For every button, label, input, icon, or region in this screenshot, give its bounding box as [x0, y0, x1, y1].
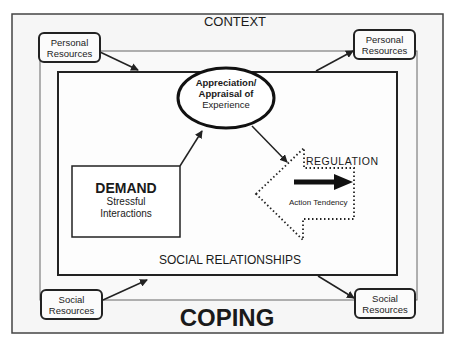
- social-resources-right: Social Resources: [354, 288, 416, 319]
- personal-resources-left-line2: Resources: [40, 48, 99, 59]
- appraisal-line1: Appreciation/: [180, 77, 272, 88]
- demand-title: DEMAND: [72, 180, 180, 196]
- social-resources-left: Social Resources: [40, 289, 103, 320]
- social-relationships-label: SOCIAL RELATIONSHIPS: [140, 253, 320, 267]
- personal-resources-left: Personal Resources: [38, 32, 101, 63]
- coping-label: COPING: [150, 305, 304, 331]
- personal-resources-right-line2: Resources: [355, 45, 414, 56]
- social-resources-left-line1: Social: [42, 294, 101, 305]
- appraisal-line2: Appraisal of: [180, 88, 272, 99]
- regulation-label: REGULATION: [306, 155, 386, 167]
- social-resources-left-line2: Resources: [42, 305, 101, 316]
- demand-line1: Stressful: [72, 196, 180, 208]
- personal-resources-right-line1: Personal: [355, 34, 414, 45]
- action-tendency-label: Action Tendency: [289, 198, 359, 207]
- context-label: CONTEXT: [190, 14, 280, 29]
- personal-resources-left-line1: Personal: [40, 37, 99, 48]
- demand-text: DEMAND Stressful Interactions: [72, 180, 180, 220]
- appraisal-text: Appreciation/ Appraisal of Experience: [180, 77, 272, 110]
- personal-resources-right: Personal Resources: [353, 29, 416, 60]
- appraisal-line3: Experience: [180, 99, 272, 110]
- demand-line2: Interactions: [72, 208, 180, 220]
- social-resources-right-line2: Resources: [356, 304, 414, 315]
- social-resources-right-line1: Social: [356, 293, 414, 304]
